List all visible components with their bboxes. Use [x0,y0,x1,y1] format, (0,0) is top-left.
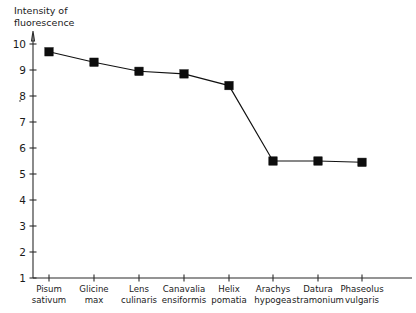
ink-speck [19,100,21,102]
x-tick-label: stramonium [292,295,344,305]
x-tick-label: ensiformis [162,295,207,305]
y-axis-title-line1: Intensity of [14,5,68,16]
x-tick-label: Lens [129,284,149,294]
y-tick-label: 3 [19,220,26,232]
data-point-marker [269,157,277,165]
data-point-marker [314,157,322,165]
x-tick-label: Helix [218,284,240,294]
data-point-marker [90,58,98,66]
data-point-marker [225,81,233,89]
y-tick-label: 9 [19,64,26,76]
data-point-marker [45,48,53,56]
x-tick-label: Arachys [256,284,291,294]
fluorescence-intensity-chart: Intensity of fluorescence 12345678910 Pi… [0,0,416,313]
x-tick-label: hypogea [254,295,291,305]
data-point-marker [358,158,366,166]
y-tick-label: 1 [19,272,26,284]
x-axis-tick-labels: PisumsativumGlicinemaxLensculinarisCanav… [32,284,384,305]
y-tick-label: 6 [19,142,26,154]
y-tick-label: 2 [19,246,26,258]
x-tick-label: culinaris [121,295,158,305]
x-tick-label: pomatia [211,295,246,305]
x-tick-label: Phaseolus [340,284,384,294]
data-point-marker [180,70,188,78]
x-tick-label: Glicine [79,284,108,294]
series-line-path [49,52,362,163]
x-tick-label: vulgaris [345,295,380,305]
x-tick-label: max [85,295,104,305]
series-markers [45,48,366,167]
x-tick-label: Canavalia [163,284,205,294]
axes [32,31,413,278]
y-tick-label: 7 [19,116,26,128]
y-tick-label: 5 [19,168,26,180]
data-point-marker [135,67,143,75]
y-axis-title: Intensity of fluorescence [14,5,75,28]
chart-canvas: Intensity of fluorescence 12345678910 Pi… [0,0,416,313]
x-tick-label: sativum [32,295,66,305]
y-tick-label: 10 [13,38,26,50]
y-tick-label: 4 [19,194,26,206]
y-axis-title-line2: fluorescence [14,17,75,28]
y-tick-label: 8 [19,90,26,102]
x-tick-label: Datura [303,284,333,294]
x-tick-label: Pisum [36,284,62,294]
